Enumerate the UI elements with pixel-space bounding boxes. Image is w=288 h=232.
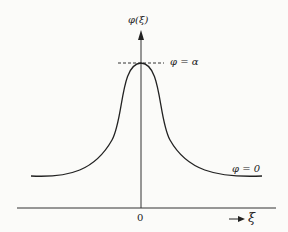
soliton-curve	[31, 63, 262, 176]
peak-label: φ = α	[170, 56, 199, 67]
x-arrow-head-icon	[238, 216, 245, 222]
diagram-canvas	[0, 0, 288, 232]
tail-label: φ = 0	[232, 163, 260, 174]
y-axis-arrowhead-icon	[138, 30, 144, 40]
x-axis-label: ξ	[248, 210, 255, 225]
y-axis-label: φ(ξ)	[128, 14, 148, 25]
origin-label: 0	[137, 212, 143, 223]
